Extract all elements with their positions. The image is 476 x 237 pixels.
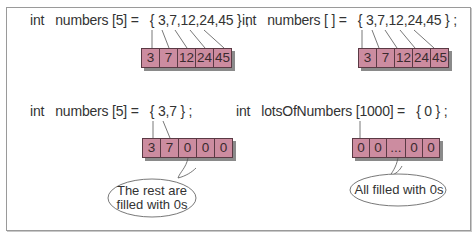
array-cell: 45 bbox=[213, 48, 232, 68]
callout-zero-fill: All filled with 0s bbox=[352, 183, 446, 197]
array-cell: 3 bbox=[142, 138, 161, 158]
array-cell: 7 bbox=[160, 138, 179, 158]
array-cell: 7 bbox=[159, 48, 178, 68]
callout-line: filled with 0s bbox=[110, 198, 194, 212]
array-cell: 3 bbox=[141, 48, 160, 68]
array-partial-init: 3 7 0 0 0 bbox=[142, 138, 233, 158]
array-cell: 45 bbox=[430, 48, 449, 68]
callout-line: The rest are bbox=[110, 184, 194, 198]
array-cell: 0 bbox=[214, 138, 233, 158]
callout-partial-init: The rest are filled with 0s bbox=[110, 184, 194, 212]
declaration-fixed-size: int numbers [5] = { 3,7,12,24,45 } ; bbox=[30, 12, 249, 28]
array-cell: 12 bbox=[177, 48, 196, 68]
array-cell: 24 bbox=[412, 48, 431, 68]
array-cell: 0 bbox=[422, 138, 440, 158]
array-cell: 0 bbox=[196, 138, 215, 158]
array-cell: 12 bbox=[394, 48, 413, 68]
array-cell: 0 bbox=[369, 138, 387, 158]
declaration-zero-fill: int lotsOfNumbers [1000] = { 0 } ; bbox=[236, 103, 447, 119]
declaration-partial-init: int numbers [5] = { 3,7 } ; bbox=[30, 103, 192, 119]
array-cell: 24 bbox=[195, 48, 214, 68]
diagram-frame bbox=[6, 7, 471, 231]
array-implicit-size: 3 7 12 24 45 bbox=[358, 48, 449, 68]
callout-line: All filled with 0s bbox=[352, 183, 446, 197]
array-cell-ellipsis: ... bbox=[386, 138, 406, 158]
declaration-implicit-size: int numbers [ ] = { 3,7,12,24,45 } ; bbox=[242, 12, 457, 28]
array-zero-fill: 0 0 ... 0 0 bbox=[352, 138, 440, 158]
array-cell: 3 bbox=[358, 48, 377, 68]
array-cell: 0 bbox=[352, 138, 370, 158]
array-cell: 0 bbox=[178, 138, 197, 158]
array-fixed-size: 3 7 12 24 45 bbox=[141, 48, 232, 68]
array-cell: 7 bbox=[376, 48, 395, 68]
array-cell: 0 bbox=[405, 138, 423, 158]
